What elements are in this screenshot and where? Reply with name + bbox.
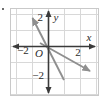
origin-label: O xyxy=(35,47,43,59)
y-tick-negative-2: −2 xyxy=(32,69,44,81)
y-tick-positive-2: 2 xyxy=(38,11,44,23)
graph-svg: −2 2 2 −2 O x y xyxy=(10,8,99,96)
x-tick-positive-2: 2 xyxy=(75,46,81,58)
coordinate-plane: −2 2 2 −2 O x y xyxy=(10,8,99,96)
x-tick-negative-2: −2 xyxy=(17,44,29,56)
bullet-marker-icon xyxy=(2,8,4,10)
graph-figure: −2 2 2 −2 O x y xyxy=(0,0,105,100)
y-axis-label: y xyxy=(53,11,59,23)
x-axis-label: x xyxy=(86,31,92,43)
